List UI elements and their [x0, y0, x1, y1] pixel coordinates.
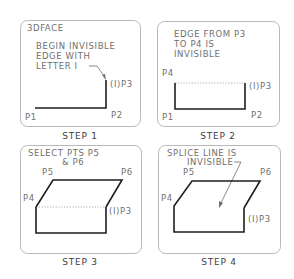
- edge-top-face: [36, 180, 122, 207]
- point-label-p2: P2: [111, 110, 123, 120]
- point-label-p4: P4: [162, 68, 174, 78]
- panel-header: 3DFACE: [27, 23, 64, 33]
- point-label-p2: P2: [251, 110, 263, 120]
- note-line-3: INVISIBLE: [174, 49, 220, 59]
- note-line-2: & P6: [62, 157, 84, 167]
- point-label-p5: P5: [183, 167, 195, 177]
- edge-p1-p2-p3: [35, 80, 106, 108]
- panel-step-3: SELECT PTS P5 & P6 P5 P6 P4 (I)P3 STEP 3: [21, 146, 142, 268]
- point-label-p1: P1: [25, 112, 37, 122]
- point-label-p6: P6: [260, 167, 272, 177]
- edge-front-face: [36, 207, 106, 233]
- step-caption: STEP 1: [62, 131, 98, 141]
- edge-p4-p1-p2-p3: [175, 83, 245, 109]
- point-label-p5: P5: [42, 167, 54, 177]
- panel-step-2: EDGE FROM P3 TO P4 IS INVISIBLE P4 P1 P2…: [158, 22, 280, 142]
- point-label-p3: (I)P3: [249, 81, 272, 91]
- panel-step-1: 3DFACE BEGIN INVISIBLE EDGE WITH LETTER …: [21, 21, 141, 142]
- point-label-p3: (I)P3: [248, 214, 271, 224]
- leader-line: [221, 162, 241, 203]
- point-label-p6: P6: [121, 167, 133, 177]
- note-line-2: TO P4 IS: [173, 39, 215, 49]
- note-line-3: LETTER I: [36, 61, 78, 71]
- point-label-p1: P1: [162, 112, 174, 122]
- leader-line: [89, 66, 104, 76]
- point-label-p4: P4: [23, 193, 35, 203]
- edge-outline: [174, 181, 260, 232]
- leader-arrowhead: [219, 201, 223, 208]
- step-caption: STEP 2: [200, 131, 236, 141]
- leader-arrowhead: [102, 74, 106, 80]
- note-line-1: EDGE FROM P3: [174, 29, 246, 39]
- step-caption: STEP 4: [201, 257, 237, 267]
- note-line-2: EDGE WITH: [36, 51, 90, 61]
- point-label-p4: P4: [161, 193, 173, 203]
- point-label-p3: (I)P3: [110, 79, 133, 89]
- note-line-1: BEGIN INVISIBLE: [36, 41, 115, 51]
- note-line-2: INVISIBLE: [187, 157, 233, 167]
- 3dface-steps-diagram: 3DFACE BEGIN INVISIBLE EDGE WITH LETTER …: [0, 0, 294, 279]
- panel-step-4: SPLICE LINE IS INVISIBLE P5 P6 P4 (I)P3 …: [159, 146, 281, 268]
- point-label-p3: (I)P3: [109, 206, 132, 216]
- step-caption: STEP 3: [62, 257, 98, 267]
